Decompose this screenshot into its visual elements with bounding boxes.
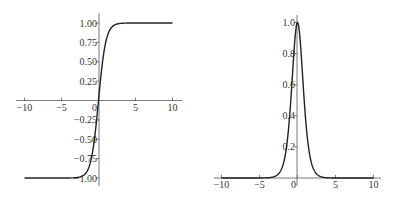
y-tick-label: 1.0	[283, 17, 296, 28]
x-tick-label: 10	[168, 102, 178, 113]
y-tick-label: 0.75	[80, 37, 98, 48]
x-tick-label: −5	[56, 102, 67, 113]
figure: −10−50510 1.000.750.500.25−0.25−0.50−0.7…	[0, 0, 393, 202]
y-tick-label: 0.25	[80, 76, 98, 87]
x-tick-labels: −10−50510	[214, 175, 379, 190]
y-tick-label: −0.75	[74, 153, 97, 164]
tanh-chart: −10−50510 1.000.750.500.25−0.25−0.50−0.7…	[16, 13, 182, 186]
x-tick-label: 0	[92, 102, 97, 113]
sech-squared-curve	[222, 23, 374, 179]
x-tick-label: 5	[133, 102, 138, 113]
y-tick-label: −0.25	[74, 114, 97, 125]
y-tick-label: 0.50	[80, 56, 98, 67]
y-tick-label: 0.2	[283, 141, 296, 152]
sech-squared-chart: −10−50510 1.00.80.60.40.2	[214, 15, 381, 190]
x-tick-label: −10	[17, 102, 33, 113]
x-tick-label: 0	[291, 179, 296, 190]
y-tick-label: 1.00	[80, 18, 98, 29]
y-tick-label: 0.6	[283, 79, 296, 90]
x-tick-label: −10	[214, 179, 230, 190]
x-tick-label: 10	[369, 179, 379, 190]
x-tick-label: −5	[254, 179, 265, 190]
x-tick-label: 5	[333, 179, 338, 190]
